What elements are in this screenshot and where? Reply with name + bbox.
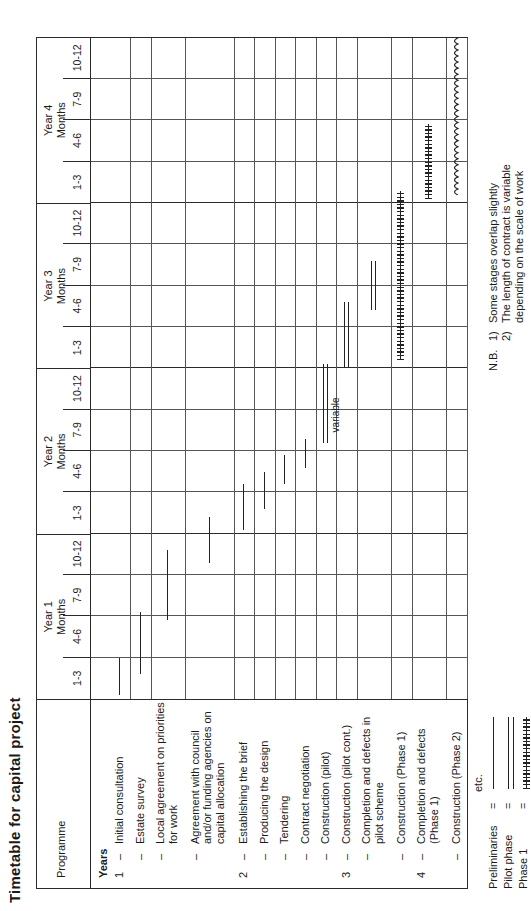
- grid-horizontal-line: [391, 38, 392, 699]
- task-dash-icon: –: [299, 848, 312, 860]
- variable-annotation: variable: [330, 397, 341, 432]
- task-bar: [451, 38, 460, 195]
- grid-horizontal-line: [151, 38, 152, 699]
- task-dash-icon: –: [415, 848, 428, 860]
- year-group-header: Year 1Months1-34-67-910-12: [37, 534, 91, 699]
- quarter-header: 1-3: [63, 162, 91, 203]
- grid-horizontal-line: [130, 38, 131, 699]
- quarter-header: 4-6: [63, 616, 91, 657]
- notes-prefix: N.B.: [487, 350, 500, 371]
- task-bar: [305, 439, 306, 468]
- legend-equals: =: [502, 803, 514, 809]
- task-dash-icon: –: [360, 848, 373, 860]
- grid-horizontal-line: [357, 38, 358, 699]
- task-bar: [284, 455, 285, 484]
- task-label: Construction (pilot): [319, 702, 332, 844]
- quarter-header: 10-12: [63, 38, 91, 79]
- quarter-header: 10-12: [63, 534, 91, 575]
- quarter-header: 10-12: [63, 203, 91, 244]
- grid-vertical-line: [91, 119, 467, 120]
- grid-vertical-line: [91, 161, 467, 162]
- task-label: Completion and defects in pilot scheme: [360, 702, 385, 844]
- page-title: Timetable for capital project: [6, 697, 23, 903]
- grid-vertical-line: [91, 491, 467, 492]
- legend-item: Phase 1=: [517, 817, 531, 889]
- double-line-icon: [508, 717, 514, 789]
- etc-label: etc.: [472, 774, 484, 792]
- programme-header: Programme: [37, 700, 91, 888]
- year-name: Year 2: [42, 436, 54, 467]
- legend-label: Preliminaries: [487, 815, 499, 889]
- quarter-header: 1-3: [63, 492, 91, 533]
- task-dash-icon: –: [278, 848, 291, 860]
- grid-horizontal-line: [446, 38, 447, 699]
- year-group-header: Year 2Months1-34-67-910-12: [37, 368, 91, 533]
- task-label: Establishing the brief: [237, 702, 250, 844]
- task-dash-icon: –: [258, 848, 271, 860]
- task-label: Producing the design: [258, 702, 271, 844]
- task-bar: [323, 364, 328, 443]
- task-bar: [209, 517, 210, 562]
- task-dash-icon: –: [113, 848, 126, 860]
- task-label: Agreement with council and/or funding ag…: [189, 702, 227, 844]
- task-bar: [371, 261, 376, 311]
- years-header-label: Years: [97, 849, 109, 878]
- task-dash-icon: –: [450, 848, 463, 860]
- grid-vertical-line: [91, 409, 467, 410]
- quarter-header: 7-9: [63, 79, 91, 120]
- chart-grid: variable: [91, 38, 467, 699]
- year-group-header: Year 4Months1-34-67-910-12: [37, 38, 91, 203]
- legend-label: Phase 1: [517, 815, 529, 889]
- grid-vertical-line: [91, 326, 467, 327]
- task-label: Construction (Phase 1): [395, 702, 408, 844]
- grid-vertical-line: [91, 243, 467, 244]
- task-label: Construction (pilot cont.): [340, 702, 353, 844]
- task-dash-icon: –: [134, 848, 147, 860]
- year-group-header: Year 3Months1-34-67-910-12: [37, 203, 91, 368]
- quarter-header: 10-12: [63, 368, 91, 409]
- hatched-line-icon: [523, 717, 530, 789]
- quarter-header: 1-3: [63, 327, 91, 368]
- grid-vertical-line: [91, 285, 467, 286]
- task-dash-icon: –: [340, 848, 353, 860]
- grid-horizontal-line: [295, 38, 296, 699]
- task-label: Tendering: [278, 702, 291, 844]
- quarter-header: 4-6: [63, 120, 91, 161]
- legend-equals: =: [517, 803, 529, 809]
- quarter-header: 7-9: [63, 244, 91, 285]
- task-year: 3: [340, 864, 353, 878]
- quarter-header: 4-6: [63, 286, 91, 327]
- quarter-header: 1-3: [63, 658, 91, 699]
- grid-vertical-line: [91, 367, 467, 368]
- grid-vertical-line: [91, 533, 467, 534]
- task-bar: [119, 658, 120, 695]
- note-text: Some stages overlap slightly: [487, 183, 500, 323]
- task-bar: [425, 124, 432, 198]
- legend-equals: =: [487, 803, 499, 809]
- task-label: Contract negotiation: [299, 702, 312, 844]
- task-year: 4: [415, 864, 428, 878]
- note-text: depending on the scale of work: [513, 171, 526, 323]
- grid-vertical-line: [91, 657, 467, 658]
- task-label: Local agreement on priorities for work: [154, 702, 179, 844]
- task-bar: [397, 191, 404, 360]
- task-dash-icon: –: [154, 848, 167, 860]
- grid-vertical-line: [91, 450, 467, 451]
- task-bar: [344, 302, 349, 368]
- grid-horizontal-line: [412, 38, 413, 699]
- grid-vertical-line: [91, 202, 467, 203]
- note-text: The length of contract is variable: [500, 164, 513, 323]
- grid-vertical-line: [91, 615, 467, 616]
- quarter-header: 7-9: [63, 575, 91, 616]
- quarter-header: 4-6: [63, 451, 91, 492]
- grid-horizontal-line: [185, 38, 186, 699]
- task-bar: [140, 612, 141, 674]
- legend-label: Pilot phase: [502, 815, 514, 889]
- grid-horizontal-line: [234, 38, 235, 699]
- note-number: 1): [487, 331, 500, 341]
- task-year: 1: [113, 864, 126, 878]
- programme-column: Programme Years 1–Initial consultation–E…: [37, 699, 467, 888]
- grid-horizontal-line: [336, 38, 337, 699]
- quarter-header: 7-9: [63, 410, 91, 451]
- task-dash-icon: –: [237, 848, 250, 860]
